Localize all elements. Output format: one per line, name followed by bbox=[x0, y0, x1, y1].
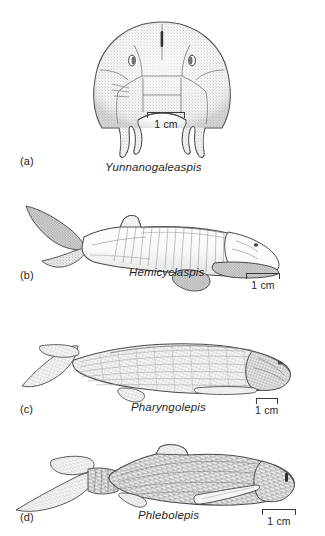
figure-panel-c: 1 cm (c) Pharyngolepis bbox=[0, 310, 325, 425]
panel-letter-d: (d) bbox=[20, 511, 34, 523]
panel-letter-c: (c) bbox=[20, 403, 33, 415]
scale-bar-c: 1 cm bbox=[255, 398, 279, 416]
figure-plate: 1 cm (a) Yunnanogaleaspis bbox=[0, 0, 325, 536]
scale-bar-line-a bbox=[147, 112, 185, 117]
scale-bar-line-c bbox=[256, 398, 278, 403]
genus-name-c: Pharyngolepis bbox=[131, 401, 206, 413]
panel-letter-b: (b) bbox=[20, 269, 34, 281]
figure-panel-d: 1 cm (d) Phlebolepis bbox=[0, 425, 325, 536]
genus-name-b: Hemicyclaspis bbox=[129, 266, 204, 278]
yunnanogaleaspis-head-shield-drawing bbox=[0, 0, 325, 185]
genus-name-d: Phlebolepis bbox=[138, 509, 199, 521]
scale-bar-line-d bbox=[262, 509, 296, 514]
scale-bar-line-b bbox=[246, 273, 280, 278]
hemicyclaspis-body-drawing bbox=[0, 185, 325, 310]
scale-bar-label-c: 1 cm bbox=[255, 404, 279, 416]
scale-bar-b: 1 cm bbox=[246, 273, 280, 291]
figure-panel-b: 1 cm (b) Hemicyclaspis bbox=[0, 185, 325, 310]
scale-bar-d: 1 cm bbox=[262, 509, 296, 527]
scale-bar-label-a: 1 cm bbox=[154, 118, 178, 130]
panel-letter-a: (a) bbox=[20, 155, 34, 167]
scale-bar-label-b: 1 cm bbox=[251, 279, 275, 291]
figure-panel-a: 1 cm (a) Yunnanogaleaspis bbox=[0, 0, 325, 185]
scale-bar-label-d: 1 cm bbox=[267, 515, 291, 527]
genus-name-a: Yunnanogaleaspis bbox=[105, 161, 202, 173]
scale-bar-a: 1 cm bbox=[147, 112, 185, 130]
